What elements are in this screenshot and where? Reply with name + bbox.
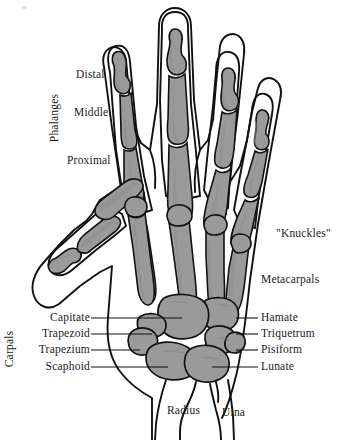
digit-ring: [204, 52, 239, 230]
carpals-group: [128, 294, 245, 382]
middle-middle-phalanx: [167, 74, 188, 144]
label-distal: Distal: [76, 68, 105, 80]
label-triquetrum: Triquetrum: [261, 327, 315, 339]
label-phalanges-group: Phalanges: [48, 94, 60, 142]
ulna-styloid: [216, 382, 218, 402]
ring-middle-phalanx: [215, 110, 237, 168]
label-capitate: Capitate: [38, 311, 90, 323]
label-lunate: Lunate: [261, 360, 294, 372]
label-carpals-group: Carpals: [3, 331, 15, 368]
label-metacarpals: Metacarpals: [261, 273, 319, 285]
label-scaphoid: Scaphoid: [32, 360, 90, 372]
label-ulna: Ulna: [222, 406, 245, 418]
label-trapezium: Trapezium: [26, 343, 90, 355]
metacarpal-head-2: [125, 197, 147, 217]
hand-bone-diagram: [0, 0, 337, 440]
ulna-bone: [210, 384, 221, 440]
metacarpal-head-5: [231, 234, 251, 253]
digit-thumb: [48, 179, 143, 275]
carpal-lunate: [185, 345, 230, 382]
label-pisiform: Pisiform: [261, 343, 302, 355]
metacarpal-head-3: [167, 205, 192, 226]
label-middle: Middle: [74, 106, 108, 118]
label-trapezoid: Trapezoid: [28, 327, 90, 339]
radius-bone: [155, 380, 166, 440]
label-hamate: Hamate: [261, 311, 298, 323]
label-radius: Radius: [167, 404, 200, 416]
label-knuckles: "Knuckles": [276, 227, 331, 239]
label-proximal: Proximal: [67, 154, 111, 166]
carpal-capitate: [158, 294, 209, 338]
scan-artifact: [22, 6, 27, 9]
middle-distal-phalanx: [167, 29, 186, 75]
metacarpal-head-4: [204, 215, 227, 235]
